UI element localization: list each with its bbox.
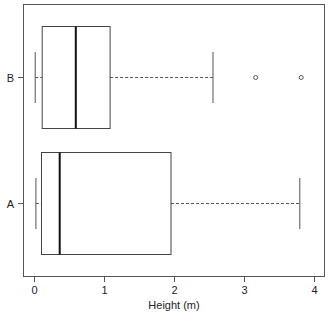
outlier-point	[299, 76, 303, 80]
y-tick-label: B	[7, 72, 14, 84]
box-group-b	[35, 27, 303, 129]
x-tick-label: 4	[311, 284, 317, 296]
outlier-point	[254, 76, 258, 80]
boxes-layer	[35, 27, 303, 255]
iqr-box	[42, 153, 172, 255]
y-tick-label: A	[7, 198, 15, 210]
x-axis-label: Height (m)	[148, 299, 199, 311]
box-group-a	[36, 153, 300, 255]
boxplot-chart: AB 01234 Height (m)	[0, 0, 328, 319]
x-axis: 01234	[31, 277, 317, 297]
y-axis: AB	[7, 72, 24, 210]
x-tick-label: 3	[241, 284, 247, 296]
x-tick-label: 2	[171, 284, 177, 296]
x-tick-label: 1	[101, 284, 107, 296]
x-tick-label: 0	[31, 284, 37, 296]
